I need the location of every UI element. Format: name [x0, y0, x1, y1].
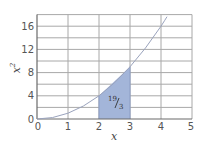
x-axis-label: x	[111, 130, 118, 143]
y-axis-label: x2	[9, 62, 23, 73]
svg-text:19: 19	[108, 95, 117, 103]
svg-text:16: 16	[21, 21, 34, 32]
svg-text:8: 8	[28, 67, 34, 78]
svg-text:0: 0	[35, 121, 41, 132]
svg-text:4: 4	[158, 121, 164, 132]
svg-text:3: 3	[127, 121, 133, 132]
y-tick-labels: 0 4 8 12 16	[21, 21, 34, 125]
chart: 0 4 8 12 16 0 1 2 3 4 5 x x2 19 3	[0, 0, 202, 145]
shaded-area	[99, 67, 130, 119]
svg-text:x2: x2	[9, 62, 23, 73]
svg-text:4: 4	[28, 90, 34, 101]
svg-text:1: 1	[65, 121, 71, 132]
svg-text:12: 12	[21, 44, 34, 55]
svg-text:2: 2	[96, 121, 102, 132]
svg-text:5: 5	[188, 121, 194, 132]
svg-text:0: 0	[28, 114, 34, 125]
svg-text:3: 3	[119, 103, 123, 111]
